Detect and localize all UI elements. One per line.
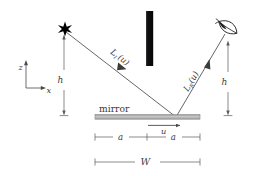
- height-left-label: h: [57, 75, 63, 85]
- reflected-ray-label: L R (u): [181, 69, 202, 94]
- coordinate-axes: [24, 60, 46, 90]
- dimension-half-widths: [95, 133, 200, 140]
- axis-z-arrowhead: [24, 60, 28, 65]
- total-width-label: W: [141, 156, 152, 167]
- occluder-bar: [146, 11, 153, 66]
- axis-x-arrowhead: [41, 86, 46, 90]
- reflected-ray: [176, 34, 225, 117]
- mirror-label: mirror: [99, 103, 130, 114]
- mirror-bar: [95, 115, 200, 120]
- offset-label: u: [161, 126, 166, 136]
- reflected-ray-line: [176, 34, 225, 117]
- light-source-star-icon: [58, 22, 72, 37]
- mirror-surface: [95, 115, 200, 120]
- half-width-right-label: a: [171, 132, 176, 142]
- reflected-ray-label-arg: (u): [186, 69, 201, 84]
- optics-diagram-svg: L I (u) L R (u) mirror h h a a W u z x: [0, 0, 256, 176]
- figure-canvas: L I (u) L R (u) mirror h h a a W u z x: [0, 0, 256, 176]
- axis-z-label: z: [17, 62, 23, 72]
- axis-x-label: x: [47, 85, 52, 95]
- observer-eye-icon: [216, 19, 237, 34]
- height-right-label: h: [221, 77, 227, 87]
- half-width-left-label: a: [118, 132, 123, 142]
